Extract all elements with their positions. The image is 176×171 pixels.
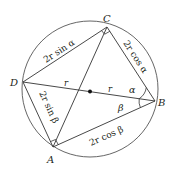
radius-label-left: r <box>64 78 69 88</box>
vertex-label-b: B <box>157 97 165 108</box>
angle-label-beta: β <box>117 102 124 113</box>
right-angle-marker-c <box>102 31 110 35</box>
side-label-dc: 2r sin α <box>42 37 77 65</box>
center-point <box>88 90 92 94</box>
vertex-label-d: D <box>9 77 18 88</box>
side-label-cb: 2r cos α <box>121 39 149 75</box>
vertex-label-a: A <box>46 154 54 165</box>
angle-label-alpha: α <box>129 84 136 95</box>
angle-arc-alpha <box>139 88 146 99</box>
circumcircle <box>22 21 158 157</box>
angle-arc-beta <box>139 99 140 108</box>
side-label-ab: 2r cos β <box>88 124 125 148</box>
vertex-label-c: C <box>103 13 111 24</box>
cyclic-quadrilateral-diagram: D C B A 2r sin α 2r cos α 2r sin β 2r co… <box>0 0 176 171</box>
radius-label-right: r <box>108 84 113 94</box>
